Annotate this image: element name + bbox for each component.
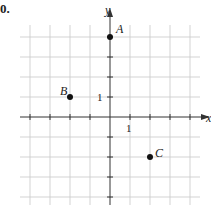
y-axis-label: y — [105, 4, 110, 16]
x-tick-label-1: 1 — [126, 123, 132, 134]
problem-number: 0. — [0, 2, 10, 15]
y-tick-label-1: 1 — [97, 92, 103, 103]
point-c-dot — [147, 154, 153, 160]
point-a-dot — [107, 34, 113, 40]
x-axis-label: x — [206, 112, 211, 124]
point-b-dot — [67, 94, 73, 100]
axes — [20, 8, 210, 205]
coordinate-plane — [0, 0, 211, 205]
point-label-c: C — [155, 147, 163, 159]
point-label-b: B — [60, 85, 67, 97]
point-label-a: A — [116, 23, 123, 35]
